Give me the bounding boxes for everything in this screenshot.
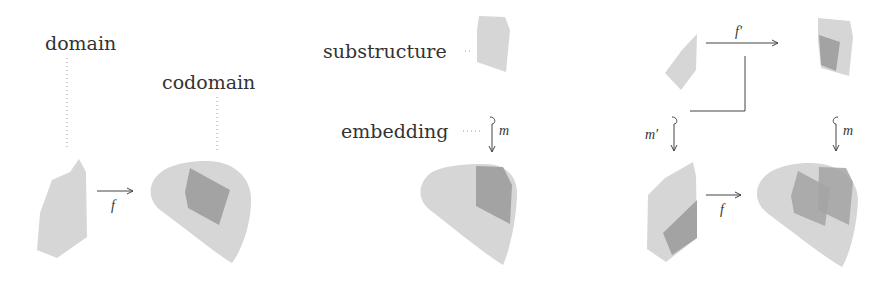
f-arrow-label: f: [111, 199, 115, 213]
embedding-label: embedding: [341, 122, 448, 141]
substructure-shape: [477, 16, 510, 72]
codomain-label: codomain: [162, 73, 255, 92]
substructure-label: substructure: [323, 42, 447, 61]
m-prime-hook-arrow: [672, 117, 677, 151]
m-right-hook-arrow: [833, 117, 838, 151]
diagram-svg: [0, 0, 895, 284]
f-bottom-arrow-label: f: [720, 203, 724, 217]
m-hook-arrow: [490, 117, 495, 152]
pullback-object-shape: [665, 34, 697, 90]
domain-shape: [37, 159, 87, 258]
pullback-corner: [690, 56, 745, 111]
m-arrow-label: m: [499, 124, 509, 138]
diagram-canvas: domain codomain f substructure embedding…: [0, 0, 895, 284]
m-prime-arrow-label: m′: [645, 128, 658, 142]
panel-pullback: [647, 18, 858, 267]
f-prime-arrow-label: f′: [735, 25, 742, 39]
m-right-arrow-label: m: [843, 124, 853, 138]
domain-label: domain: [45, 34, 116, 53]
